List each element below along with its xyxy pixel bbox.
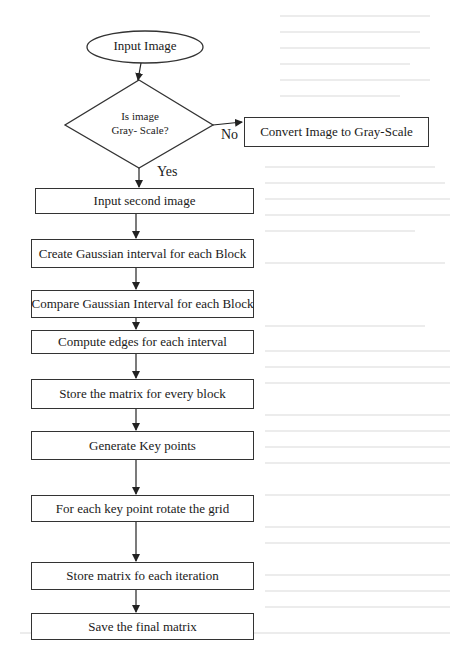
step-label: Compute edges for each interval [58, 334, 227, 350]
step-create-gaussian-interval: Create Gaussian interval for each Block [31, 239, 254, 268]
step-label: Create Gaussian interval for each Block [39, 246, 247, 262]
step-label: Generate Key points [89, 438, 196, 454]
step-label: Save the final matrix [88, 619, 197, 635]
step-store-matrix-each-iteration: Store matrix fo each iteration [31, 562, 254, 590]
arrow-no [213, 122, 242, 125]
start-label: Input Image [87, 38, 203, 54]
step-label: Input second image [94, 193, 196, 209]
step-save-final-matrix: Save the final matrix [31, 613, 254, 640]
yes-branch-label: Yes [157, 164, 177, 180]
step-store-matrix-every-block: Store the matrix for every block [31, 379, 254, 409]
step-label: For each key point rotate the grid [56, 501, 229, 517]
convert-gray-scale-box: Convert Image to Gray-Scale [244, 117, 429, 147]
arrow-start-to-decision [138, 63, 141, 80]
no-branch-label: No [221, 127, 238, 143]
step-rotate-grid: For each key point rotate the grid [31, 495, 254, 522]
step-label: Store matrix fo each iteration [66, 568, 218, 584]
step-compute-edges: Compute edges for each interval [31, 330, 254, 354]
decision-line-2: Gray- Scale? [90, 123, 190, 137]
step-label: Store the matrix for every block [59, 386, 225, 402]
step-compare-gaussian-interval: Compare Gaussian Interval for each Block [31, 290, 254, 318]
step-label: Compare Gaussian Interval for each Block [32, 296, 254, 312]
step-input-second-image: Input second image [35, 188, 254, 214]
decision-line-1: Is image [90, 109, 190, 123]
decision-label: Is image Gray- Scale? [90, 109, 190, 137]
flowchart-connectors [0, 0, 458, 645]
convert-gray-scale-label: Convert Image to Gray-Scale [260, 124, 413, 140]
step-generate-key-points: Generate Key points [31, 431, 254, 460]
